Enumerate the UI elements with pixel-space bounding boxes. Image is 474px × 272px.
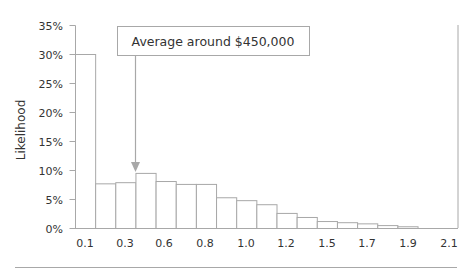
- y-tick-label: 25%: [39, 78, 63, 91]
- bar: [358, 224, 378, 229]
- annotation: Average around $450,000: [118, 27, 310, 173]
- bars: [76, 55, 419, 229]
- x-tick-label: 0.1: [76, 237, 94, 250]
- bar: [196, 184, 216, 228]
- bar: [337, 223, 357, 229]
- bar: [136, 173, 156, 228]
- y-tick-label: 10%: [39, 165, 63, 178]
- x-tick-label: 0.6: [155, 237, 173, 250]
- x-tick-label: 0.8: [196, 237, 214, 250]
- y-tick-label: 0%: [46, 223, 63, 236]
- bar: [76, 55, 96, 229]
- annotation-label: Average around $450,000: [132, 34, 295, 49]
- x-tick-label: 2.1: [440, 237, 458, 250]
- x-tick-label: 1.0: [237, 237, 255, 250]
- y-tick-label: 5%: [46, 194, 63, 207]
- y-axis-title: Likelihood: [14, 100, 28, 161]
- bar: [176, 184, 196, 228]
- x-tick-label: 0.3: [116, 237, 134, 250]
- x-tick-label: 1.9: [399, 237, 417, 250]
- y-tick-label: 15%: [39, 136, 63, 149]
- bar: [297, 217, 317, 228]
- bar: [257, 205, 277, 229]
- bar: [277, 213, 297, 228]
- bar: [317, 222, 337, 229]
- x-axis: 0.10.30.60.81.01.21.51.71.92.1: [76, 229, 459, 251]
- bar: [217, 198, 237, 229]
- arrow-down-icon: [131, 162, 140, 172]
- x-tick-label: 1.5: [318, 237, 336, 250]
- y-tick-label: 35%: [39, 20, 63, 33]
- y-tick-label: 30%: [39, 49, 63, 62]
- histogram-chart: 0%5%10%15%20%25%30%35% 0.10.30.60.81.01.…: [0, 0, 474, 272]
- bar: [237, 201, 257, 229]
- x-tick-label: 1.7: [358, 237, 376, 250]
- bar: [96, 184, 116, 229]
- bar: [156, 182, 176, 229]
- bar: [116, 183, 136, 229]
- y-axis: 0%5%10%15%20%25%30%35%: [39, 20, 76, 236]
- y-tick-label: 20%: [39, 107, 63, 120]
- x-tick-label: 1.2: [277, 237, 295, 250]
